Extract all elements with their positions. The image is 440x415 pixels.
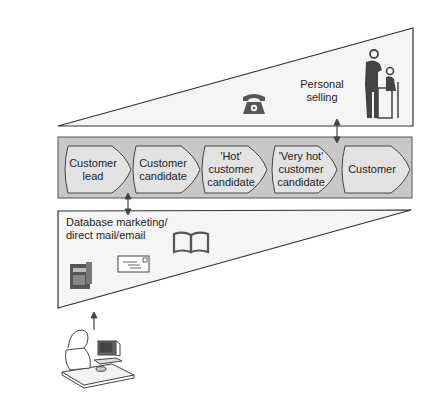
diagram-canvas [0,0,440,415]
personal-selling-line1: Personal [292,78,352,91]
personal-selling-line2: selling [292,91,352,104]
stage-label: 'Very hot' customer candidate [271,150,331,189]
arrow-up-icon [91,312,97,330]
stage-label: Customer candidate [133,157,193,183]
double-arrow-bottom-icon [125,193,131,215]
stage-customer: Customer [342,146,402,193]
double-arrow-top-icon [334,119,340,143]
stage-label: Customer [348,163,396,176]
stage-customer-lead: Customer lead [64,146,122,193]
envelope-icon [118,256,149,272]
stage-label: Customer lead [64,157,122,183]
database-marketing-line1: Database marketing/ [66,216,168,229]
stage-customer-candidate: Customer candidate [133,146,193,193]
stage-very-hot-customer-candidate: 'Very hot' customer candidate [271,146,331,193]
catalog-icon [70,262,92,289]
personal-selling-wedge [58,28,413,126]
stage-hot-customer-candidate: 'Hot' customer candidate [202,146,260,193]
personal-selling-label: Personal selling [292,78,352,104]
person-at-computer-icon [62,330,134,388]
database-marketing-label: Database marketing/ direct mail/email [66,216,168,242]
database-marketing-line2: direct mail/email [66,229,168,242]
stage-label: 'Hot' customer candidate [202,150,260,189]
